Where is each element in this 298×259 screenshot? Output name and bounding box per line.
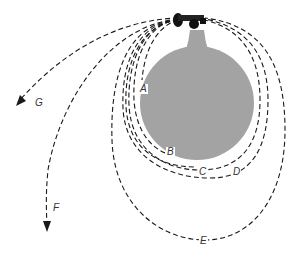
mountain [186,30,208,50]
label-b: B [166,147,175,157]
cannon-icon [173,13,206,29]
arrow-f-icon [43,221,51,232]
label-g: G [34,98,44,108]
label-f: F [52,203,60,213]
label-c: C [198,167,207,177]
earth [140,30,254,160]
label-e: E [199,236,208,246]
label-a: A [139,84,148,94]
arrow-g-icon [16,95,26,106]
orbit-diagram [0,0,298,259]
label-d: D [232,167,241,177]
